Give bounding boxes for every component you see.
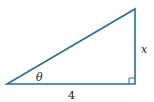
side-label-4: 4 [68,89,75,102]
side-label-x: x [141,43,148,56]
right-angle-marker [129,78,135,84]
triangle-diagram: θ x 4 [0,0,154,102]
triangle [7,9,135,84]
angle-label-theta: θ [36,71,43,84]
